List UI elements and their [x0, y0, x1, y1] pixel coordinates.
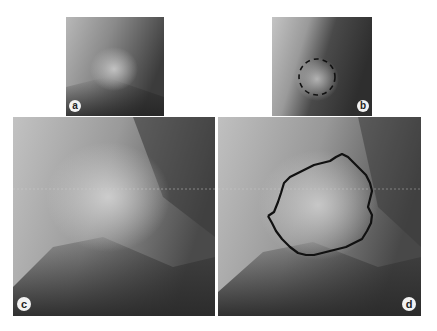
panel-label-a: a	[69, 100, 81, 112]
panel-b-image: b	[272, 17, 372, 116]
panel-c-image: c	[13, 117, 215, 316]
panel-label-b: b	[357, 100, 369, 112]
panel-label-d: d	[402, 297, 416, 311]
panel-label-c: c	[17, 297, 31, 311]
panel-d-image: d	[218, 117, 421, 316]
radiograph-b	[272, 17, 372, 116]
radiograph-d	[218, 117, 421, 316]
panel-a-image: a	[66, 17, 164, 116]
radiograph-a	[66, 17, 164, 116]
radiograph-c	[13, 117, 215, 316]
